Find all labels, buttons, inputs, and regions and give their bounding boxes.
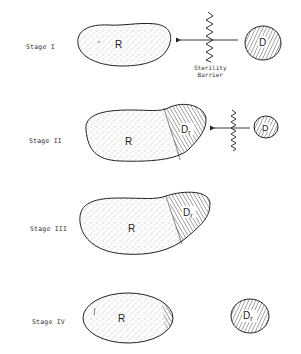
recipient-label: R xyxy=(115,39,122,50)
donor-label: D xyxy=(262,123,269,133)
stage-1-label: Stage I xyxy=(26,43,55,51)
stage-4-label: Stage IV xyxy=(32,318,65,326)
stage-2-group: R Dr D xyxy=(80,100,278,170)
stage-3-group: R Dr xyxy=(75,185,215,260)
diagram-figure: R D R Dr D xyxy=(0,0,301,354)
recipient-label: R xyxy=(118,313,125,324)
diagram-canvas: R D R Dr D xyxy=(0,0,301,354)
sterility-barrier-caption: Sterility Barrier xyxy=(194,64,227,78)
sterility-barrier-zigzag xyxy=(231,110,236,151)
barrier-caption-line-1: Sterility xyxy=(194,64,227,71)
barrier-caption-line-2: Barrier xyxy=(194,71,227,78)
stage-3-label: Stage III xyxy=(30,225,67,233)
recipient-label: R xyxy=(125,136,132,147)
stage-1-group: R D xyxy=(78,12,281,66)
donor-label: D xyxy=(259,37,266,48)
sterility-barrier-zigzag xyxy=(206,12,213,62)
stage-4-group: R Dr xyxy=(83,290,269,345)
recipient-blob xyxy=(78,23,171,66)
stage-2-label: Stage II xyxy=(29,137,62,145)
recipient-label: R xyxy=(128,223,135,234)
